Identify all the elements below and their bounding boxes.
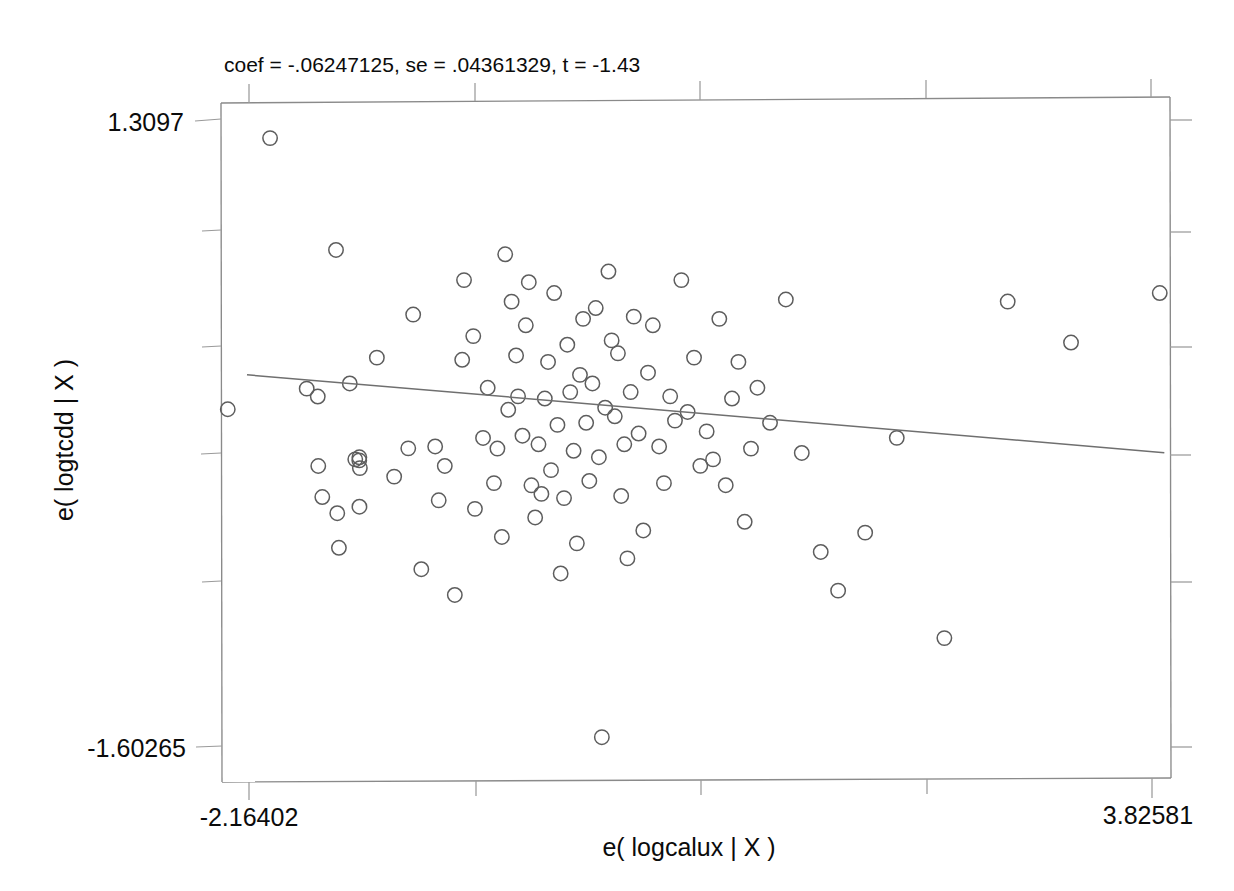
data-point xyxy=(476,431,490,445)
data-point xyxy=(370,350,384,364)
data-point xyxy=(627,309,641,323)
data-point xyxy=(455,353,469,367)
data-point xyxy=(550,418,564,432)
data-point xyxy=(311,459,325,473)
data-point xyxy=(601,264,615,278)
data-point xyxy=(573,368,587,382)
y-tick-4 xyxy=(202,581,221,582)
y-axis-tick-label-max: 1.3097 xyxy=(108,108,184,136)
data-point xyxy=(538,391,552,405)
data-point xyxy=(719,478,733,492)
data-point xyxy=(831,583,845,597)
x-axis-ticks-top xyxy=(249,79,1151,103)
data-point xyxy=(744,441,758,455)
data-point xyxy=(487,476,501,490)
data-point xyxy=(544,463,558,477)
data-point xyxy=(481,381,495,395)
data-point xyxy=(457,273,471,287)
data-point xyxy=(498,247,512,261)
data-point xyxy=(504,294,518,308)
data-point xyxy=(528,510,542,524)
data-point xyxy=(406,307,420,321)
y-tick-1 xyxy=(202,230,221,231)
chart-canvas: coef = -.06247125, se = .04361329, t = -… xyxy=(0,0,1234,891)
data-point xyxy=(706,452,720,466)
y-axis-tick-label-min: -1.60265 xyxy=(87,734,186,762)
data-point xyxy=(598,401,612,415)
data-point xyxy=(414,562,428,576)
data-point xyxy=(428,439,442,453)
data-point xyxy=(432,493,446,507)
data-point xyxy=(763,416,777,430)
data-point xyxy=(531,437,545,451)
data-point xyxy=(712,312,726,326)
data-point xyxy=(652,439,666,453)
plot-frame xyxy=(221,97,1171,782)
data-point xyxy=(604,333,618,347)
y-tick-3 xyxy=(201,453,221,454)
data-point xyxy=(1064,335,1078,349)
data-point xyxy=(779,292,793,306)
data-point xyxy=(263,131,277,145)
data-point xyxy=(329,243,343,257)
data-point xyxy=(501,403,515,417)
data-point xyxy=(641,365,655,379)
scatter-markers xyxy=(221,131,1167,744)
data-point xyxy=(522,275,536,289)
data-point xyxy=(438,459,452,473)
data-point xyxy=(595,730,609,744)
data-point xyxy=(401,441,415,455)
data-point xyxy=(332,541,346,555)
data-point xyxy=(668,413,682,427)
data-point xyxy=(585,376,599,390)
y-tick-major-bottom xyxy=(196,746,222,747)
data-point xyxy=(725,391,739,405)
data-point xyxy=(631,426,645,440)
data-point xyxy=(890,431,904,445)
data-point xyxy=(617,437,631,451)
data-point xyxy=(490,441,504,455)
data-point xyxy=(495,530,509,544)
axis-left xyxy=(221,103,222,782)
data-point xyxy=(614,489,628,503)
data-point xyxy=(330,506,344,520)
data-point xyxy=(646,318,660,332)
data-point xyxy=(592,450,606,464)
data-point xyxy=(608,409,622,423)
data-point xyxy=(509,348,523,362)
data-point xyxy=(448,588,462,602)
x-axis-tick-label-min: -2.16402 xyxy=(200,803,299,831)
data-point xyxy=(541,355,555,369)
data-point xyxy=(466,329,480,343)
data-point xyxy=(674,273,688,287)
data-point xyxy=(576,312,590,326)
added-variable-plot-figure: coef = -.06247125, se = .04361329, t = -… xyxy=(0,0,1234,891)
data-point xyxy=(589,301,603,315)
data-point xyxy=(750,381,764,395)
data-point xyxy=(937,631,951,645)
data-point xyxy=(566,444,580,458)
data-point xyxy=(737,515,751,529)
y-axis-ticks-right xyxy=(1170,120,1192,747)
data-point xyxy=(387,469,401,483)
axis-bottom xyxy=(222,778,1171,782)
data-point xyxy=(563,385,577,399)
data-point xyxy=(611,346,625,360)
axis-right xyxy=(1170,97,1171,778)
data-point xyxy=(1153,286,1167,300)
data-point xyxy=(515,428,529,442)
data-point xyxy=(511,389,525,403)
data-point xyxy=(858,525,872,539)
y-tick-major-top xyxy=(195,119,221,121)
x-axis-tick-label-max: 3.82581 xyxy=(1103,801,1193,829)
data-point xyxy=(557,491,571,505)
data-point xyxy=(221,402,235,416)
regression-fit-line xyxy=(247,375,1164,453)
data-point xyxy=(620,551,634,565)
data-point xyxy=(311,389,325,403)
axis-top xyxy=(221,97,1170,103)
data-point xyxy=(570,536,584,550)
y-axis-ticks xyxy=(195,119,222,747)
data-point xyxy=(687,350,701,364)
fit-line-segment xyxy=(247,375,1164,453)
